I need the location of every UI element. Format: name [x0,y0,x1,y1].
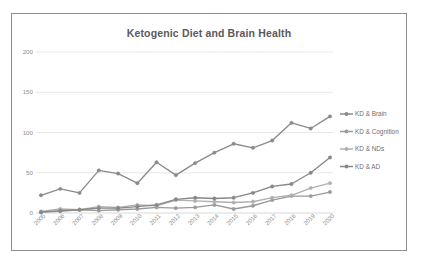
data-point [174,206,177,209]
data-point [251,146,254,149]
legend-item-kd-cognition[interactable]: KD & Cognition [340,128,399,136]
data-point [155,161,158,164]
x-tick-2019: 2019 [302,212,316,226]
data-point [59,187,62,190]
legend-item-kd-ad[interactable]: KD & AD [340,163,381,170]
data-point [328,115,331,118]
data-point [116,172,119,175]
y-tick-200: 200 [23,48,34,55]
data-point [328,190,331,193]
data-point [251,204,254,207]
y-tick-0: 0 [30,209,34,216]
series-kd-cognition [39,190,331,214]
x-tick-2014: 2014 [206,212,220,226]
data-point [232,196,235,199]
x-tick-2011: 2011 [149,212,163,226]
legend-swatch-marker [345,130,349,134]
data-point [155,203,158,206]
y-tick-50: 50 [26,169,33,176]
x-tick-2020: 2020 [322,212,336,226]
chart-legend: KD & BrainKD & CognitionKD & NDsKD & AD [340,110,399,170]
data-point [309,127,312,130]
data-point [290,194,293,197]
legend-swatch-marker [345,165,349,169]
data-point [97,169,100,172]
legend-swatch-marker [345,112,349,116]
data-point [59,209,62,212]
x-tick-2017: 2017 [264,212,278,226]
data-point [251,191,254,194]
x-tick-2008: 2008 [91,212,105,226]
x-tick-2009: 2009 [110,212,124,226]
x-tick-2018: 2018 [283,212,297,226]
data-point [232,201,235,204]
data-point [174,173,177,176]
x-tick-2006: 2006 [52,212,66,226]
data-point [271,185,274,188]
legend-swatch-marker [345,147,349,151]
data-point [193,196,196,199]
x-tick-2007: 2007 [71,212,85,226]
legend-label: KD & NDs [355,145,384,152]
x-tick-2015: 2015 [225,212,239,226]
series-polyline [41,157,330,212]
x-axis-tick-labels: 2005200620072008200920102011201220132014… [33,212,336,226]
data-point [39,194,42,197]
data-point [232,142,235,145]
data-point [290,121,293,124]
data-point [116,206,119,209]
data-point [328,156,331,159]
x-tick-2010: 2010 [129,212,143,226]
data-point [78,191,81,194]
data-point [136,182,139,185]
data-point [271,196,274,199]
data-point [213,200,216,203]
line-chart: 050100150200 200520062007200820092010201… [12,14,408,252]
data-point [193,206,196,209]
series-kd-ad [39,156,331,214]
data-point [78,208,81,211]
data-point [290,182,293,185]
data-point [97,206,100,209]
data-point [309,194,312,197]
data-point [136,205,139,208]
legend-item-kd-brain[interactable]: KD & Brain [340,110,387,117]
data-series-group [39,115,331,214]
legend-label: KD & Brain [355,110,387,117]
chart-frame: Ketogenic Diet and Brain Health 05010015… [11,13,407,251]
y-axis-tick-labels: 050100150200 [23,48,34,216]
x-tick-2013: 2013 [187,212,201,226]
y-tick-150: 150 [23,88,34,95]
legend-label: KD & Cognition [355,128,399,136]
legend-label: KD & AD [355,163,381,170]
data-point [39,210,42,213]
data-point [251,200,254,203]
series-polyline [41,116,330,195]
data-point [213,197,216,200]
data-point [232,207,235,210]
legend-item-kd-nds[interactable]: KD & NDs [340,145,384,152]
y-tick-100: 100 [23,129,34,136]
x-tick-2005: 2005 [33,212,47,226]
data-point [309,186,312,189]
gridlines-group [36,52,333,213]
data-point [213,203,216,206]
data-point [174,198,177,201]
data-point [309,171,312,174]
data-point [328,182,331,185]
data-point [193,199,196,202]
x-tick-2016: 2016 [245,212,259,226]
data-point [271,139,274,142]
data-point [193,161,196,164]
data-point [213,151,216,154]
x-tick-2012: 2012 [168,212,182,226]
